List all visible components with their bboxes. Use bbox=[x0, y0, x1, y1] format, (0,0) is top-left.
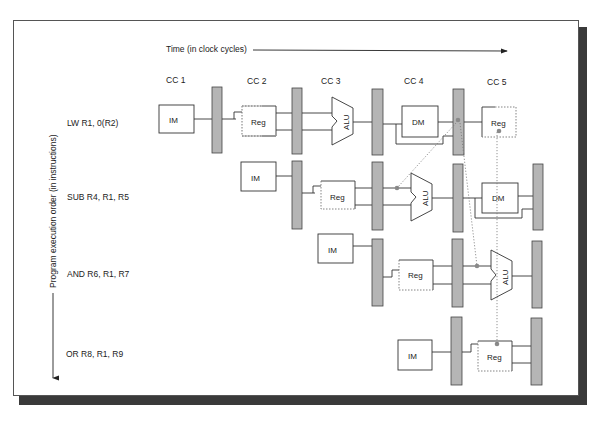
or-pipeline-register-2 bbox=[531, 318, 542, 385]
and-alu-label: ALU bbox=[501, 269, 510, 285]
row-sub: IM Reg ALU DM bbox=[241, 161, 543, 232]
lw-pipeline-register-2 bbox=[292, 88, 302, 154]
instruction-and-label: AND R6, R1, R7 bbox=[67, 269, 130, 279]
sub-pipeline-register-1 bbox=[292, 161, 302, 229]
cc3-label: CC 3 bbox=[321, 76, 341, 86]
sub-pipeline-register-3 bbox=[453, 164, 463, 232]
cc4-label: CC 4 bbox=[404, 76, 424, 86]
row-or: IM Reg bbox=[398, 317, 542, 385]
sub-reg-label: Reg bbox=[330, 193, 345, 202]
instruction-lw-label: LW R1, 0(R2) bbox=[67, 118, 118, 128]
pipeline-diagram: Time (in clock cycles) Program execution… bbox=[0, 0, 609, 426]
and-im-label: IM bbox=[328, 246, 337, 255]
lw-wb-reg-label: Reg bbox=[491, 119, 506, 128]
lw-pipeline-register-1 bbox=[212, 87, 222, 153]
forwarding-source-dot-1 bbox=[456, 118, 461, 123]
and-pipeline-register-2 bbox=[452, 239, 463, 307]
cc5-label: CC 5 bbox=[487, 77, 507, 87]
time-axis-arrow bbox=[253, 50, 507, 51]
program-order-label: Program execution order (in instructions… bbox=[48, 134, 58, 288]
lw-pipeline-register-3 bbox=[372, 89, 383, 155]
or-reg-label: Reg bbox=[487, 353, 502, 362]
sub-pipeline-register-2 bbox=[372, 162, 383, 230]
or-pipeline-register-1 bbox=[451, 317, 462, 385]
sub-im-label: IM bbox=[251, 174, 260, 183]
and-reg-label: Reg bbox=[408, 271, 423, 280]
lw-reg-label: Reg bbox=[251, 118, 266, 127]
and-pipeline-register-1 bbox=[372, 239, 383, 306]
lw-im-label: IM bbox=[169, 116, 178, 125]
row-and: IM Reg ALU bbox=[318, 234, 542, 308]
lw-dm-label: DM bbox=[412, 118, 425, 127]
lw-alu-label: ALU bbox=[342, 114, 351, 130]
cc1-label: CC 1 bbox=[166, 75, 186, 85]
forwarding-paths bbox=[397, 123, 497, 344]
instruction-sub-label: SUB R4, R1, R5 bbox=[67, 192, 129, 202]
instruction-or-label: OR R8, R1, R9 bbox=[66, 349, 123, 359]
and-pipeline-register-3 bbox=[532, 241, 542, 308]
cc2-label: CC 2 bbox=[247, 76, 267, 86]
or-im-label: IM bbox=[408, 352, 417, 361]
sub-pipeline-register-4 bbox=[533, 164, 543, 230]
sub-dm-label: DM bbox=[492, 194, 505, 203]
sub-alu-label: ALU bbox=[421, 190, 430, 206]
time-axis-label: Time (in clock cycles) bbox=[166, 44, 247, 54]
